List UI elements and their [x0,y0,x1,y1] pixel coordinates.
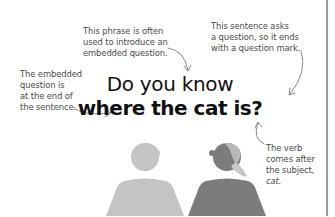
page-divider [326,0,328,216]
annotation-line: used to introduce an [83,37,168,48]
annotation-embedded-end: The embedded question is at the end of t… [20,69,82,113]
left-person-figure [106,143,184,216]
annotation-line: This sentence asks [211,21,300,32]
annotation-line: The embedded [20,69,82,80]
annotation-line: question is [20,80,82,91]
arrow-verb-head [255,122,262,128]
annotation-line: embedded question. [83,48,168,59]
right-person-figure [188,143,266,216]
left-person-body [106,179,184,217]
annotation-line: This phrase is often [83,26,168,37]
annotation-line: the sentence. [20,102,82,113]
arrow-question-mark [290,51,303,94]
annotation-verb-after-subject: The verb comes after the subject, cat. [266,143,315,187]
headline-line-2: where the cat is? [50,96,290,120]
annotation-line: the subject, [266,165,315,176]
annotation-italic-word: cat. [266,176,315,187]
annotation-line: a question, so it ends [211,32,300,43]
diagram-canvas: Do you know where the cat is? This phras… [0,0,335,216]
annotation-line: comes after [266,154,315,165]
annotation-question-mark: This sentence asks a question, so it end… [211,21,300,54]
arrow-verb [256,123,264,144]
headline-line-1: Do you know [50,72,290,96]
right-person-body [188,179,266,217]
annotation-line: with a question mark. [211,43,300,54]
annotation-phrase-intro: This phrase is often used to introduce a… [83,26,168,59]
annotation-line: at the end of [20,91,82,102]
annotation-line: The verb [266,143,315,154]
